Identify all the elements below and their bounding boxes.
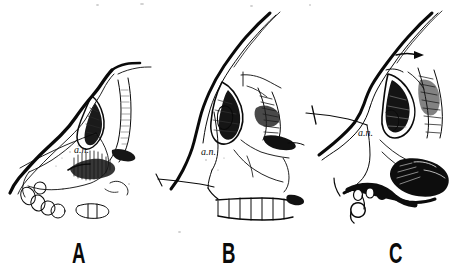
panel-b-an-label: a.n. [201,146,216,157]
panel-a-drawing [0,0,155,275]
scan-speck [96,4,99,6]
panel-c-letter: C [389,238,402,268]
scan-speck [250,5,253,7]
panel-c-an-label: a.n. [358,127,373,138]
scan-speck [140,3,144,5]
scan-speck [128,183,130,185]
figure-panel-container: a.n. A [0,0,452,275]
panel-a-letter: A [72,238,85,268]
panel-c-drawing [296,0,452,275]
panel-b-drawing [148,0,308,275]
scan-speck [178,231,181,233]
panel-a-an-label: a.n. [74,144,89,155]
scan-speck [309,4,311,6]
panel-b-letter: B [222,238,235,268]
